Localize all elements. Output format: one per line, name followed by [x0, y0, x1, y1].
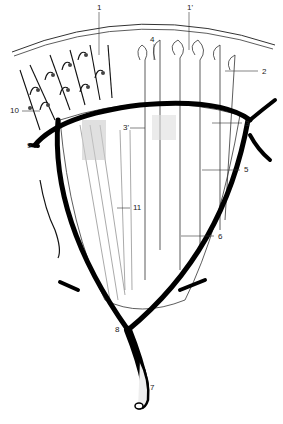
- label-7: 7: [150, 384, 154, 392]
- label-10: 10: [10, 107, 19, 115]
- label-9: 9: [27, 142, 31, 150]
- label-3: 3: [245, 120, 249, 128]
- cortical-radiate-vessels: [20, 45, 112, 130]
- arcuate-vessels: [30, 100, 275, 385]
- label-5: 5: [244, 166, 248, 174]
- label-1: 1: [97, 4, 101, 12]
- label-3-prime: 3': [123, 124, 129, 132]
- nephron-tubules: [138, 40, 235, 280]
- label-11: 11: [133, 204, 141, 212]
- kidney-lobe-diagram: [0, 0, 283, 424]
- label-2: 2: [262, 68, 266, 76]
- label-4: 4: [150, 36, 154, 44]
- label-8: 8: [115, 326, 119, 334]
- label-1-prime: 1': [187, 4, 193, 12]
- renal-capsule: [12, 24, 275, 52]
- label-6: 6: [218, 233, 222, 241]
